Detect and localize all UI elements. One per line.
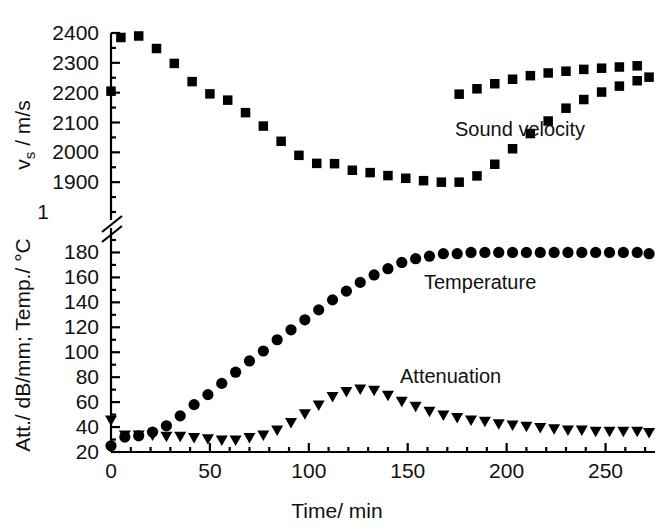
data-point-square bbox=[597, 87, 607, 97]
data-point-circle bbox=[355, 277, 366, 288]
data-point-triangle bbox=[368, 386, 380, 397]
svg-text:Att./ dB/mm; Temp./ °C: Att./ dB/mm; Temp./ °C bbox=[11, 238, 34, 451]
data-point-square bbox=[597, 63, 607, 73]
data-point-square bbox=[454, 89, 464, 99]
data-point-triangle bbox=[382, 391, 394, 402]
data-point-square bbox=[561, 103, 571, 113]
data-point-square bbox=[472, 171, 482, 181]
data-point-triangle bbox=[451, 413, 463, 424]
data-point-triangle bbox=[631, 427, 643, 438]
data-point-square bbox=[187, 77, 197, 87]
data-point-circle bbox=[272, 334, 283, 345]
chart-canvas: 1900200021002200230024001204060801001201… bbox=[0, 0, 670, 529]
data-point-triangle bbox=[340, 387, 352, 398]
y-tick-label-bottom-140: 140 bbox=[64, 290, 99, 313]
y-axis-title-top-subscript: s bbox=[21, 152, 38, 160]
data-point-triangle bbox=[604, 427, 616, 438]
data-point-square bbox=[632, 61, 642, 71]
data-point-square bbox=[472, 84, 482, 94]
data-point-circle bbox=[452, 248, 463, 259]
data-point-triangle bbox=[493, 419, 505, 430]
data-point-square bbox=[615, 62, 625, 71]
data-point-circle bbox=[230, 367, 241, 378]
y-tick-label-top-1800-clipped: 1 bbox=[37, 200, 49, 223]
data-point-square bbox=[259, 121, 269, 131]
data-point-square bbox=[170, 59, 180, 69]
data-point-triangle bbox=[327, 392, 339, 403]
y-tick-label-bottom-60: 60 bbox=[76, 390, 99, 413]
data-point-square bbox=[365, 168, 375, 178]
series-attenuation bbox=[105, 384, 655, 446]
x-tick-label-250: 250 bbox=[588, 459, 623, 482]
data-point-triangle bbox=[617, 427, 629, 438]
data-point-circle bbox=[479, 247, 490, 258]
y-axis-title-bottom: Att./ dB/mm; Temp./ °C bbox=[11, 238, 34, 451]
data-point-triangle bbox=[643, 428, 655, 439]
series-sound-velocity-tail- bbox=[454, 61, 642, 99]
data-point-triangle bbox=[313, 401, 325, 412]
data-point-circle bbox=[604, 247, 615, 258]
data-point-triangle bbox=[396, 397, 408, 408]
figure-container: 1900200021002200230024001204060801001201… bbox=[0, 0, 670, 529]
data-point-square bbox=[330, 159, 340, 169]
y-tick-label-top-2200: 2200 bbox=[52, 81, 99, 104]
data-point-triangle bbox=[520, 422, 532, 433]
data-point-circle bbox=[590, 247, 601, 258]
series-label-attenuation: Attenuation bbox=[400, 365, 501, 387]
data-point-circle bbox=[562, 247, 573, 258]
svg-text:vs / m/s: vs / m/s bbox=[11, 100, 38, 169]
data-point-triangle bbox=[590, 427, 602, 438]
data-point-circle bbox=[368, 269, 379, 280]
y-tick-label-bottom-180: 180 bbox=[64, 240, 99, 263]
y-tick-label-bottom-40: 40 bbox=[76, 415, 99, 438]
x-tick-label-150: 150 bbox=[390, 459, 425, 482]
data-point-square bbox=[419, 176, 429, 186]
data-point-triangle bbox=[257, 431, 269, 442]
data-point-triangle bbox=[202, 434, 214, 445]
data-point-circle bbox=[576, 247, 587, 258]
y-axis-title-top-rest: / m/s bbox=[11, 100, 34, 151]
data-point-circle bbox=[258, 345, 269, 356]
data-point-triangle bbox=[576, 426, 588, 437]
data-point-square bbox=[383, 171, 393, 181]
data-point-square bbox=[241, 108, 251, 118]
data-point-circle bbox=[465, 247, 476, 258]
data-point-triangle bbox=[216, 436, 228, 447]
y-tick-label-bottom-120: 120 bbox=[64, 315, 99, 338]
data-point-square bbox=[205, 89, 215, 99]
x-tick-label-100: 100 bbox=[291, 459, 326, 482]
y-axis-title-top-main: v bbox=[11, 159, 34, 170]
y-tick-label-top-2400: 2400 bbox=[52, 21, 99, 44]
data-point-triangle bbox=[423, 407, 435, 418]
data-point-square bbox=[454, 177, 464, 187]
data-point-circle bbox=[618, 247, 629, 258]
data-point-circle bbox=[521, 247, 532, 258]
y-tick-label-bottom-160: 160 bbox=[64, 265, 99, 288]
y-tick-label-top-2300: 2300 bbox=[52, 51, 99, 74]
data-point-triangle bbox=[299, 409, 311, 420]
data-point-square bbox=[152, 44, 162, 54]
data-point-square bbox=[632, 76, 642, 86]
data-point-square bbox=[490, 160, 500, 170]
data-point-circle bbox=[410, 253, 421, 264]
data-point-square bbox=[134, 31, 144, 41]
data-point-square bbox=[561, 66, 571, 76]
data-point-triangle bbox=[548, 424, 560, 435]
series-temperature bbox=[105, 247, 654, 451]
x-tick-label-50: 50 bbox=[198, 459, 221, 482]
data-point-circle bbox=[643, 248, 654, 259]
data-point-circle bbox=[632, 247, 643, 258]
data-point-square bbox=[116, 33, 126, 43]
data-point-circle bbox=[299, 314, 310, 325]
series-sound-velocity bbox=[106, 31, 654, 187]
data-point-square bbox=[543, 68, 553, 78]
data-point-circle bbox=[216, 378, 227, 389]
y-tick-label-top-2000: 2000 bbox=[52, 140, 99, 163]
x-axis-title: Time/ min bbox=[291, 499, 382, 522]
data-point-circle bbox=[161, 420, 172, 431]
data-point-triangle bbox=[534, 423, 546, 434]
data-point-triangle bbox=[410, 402, 422, 413]
data-point-circle bbox=[313, 304, 324, 315]
x-tick-label-0: 0 bbox=[105, 459, 117, 482]
data-point-triangle bbox=[147, 431, 159, 442]
